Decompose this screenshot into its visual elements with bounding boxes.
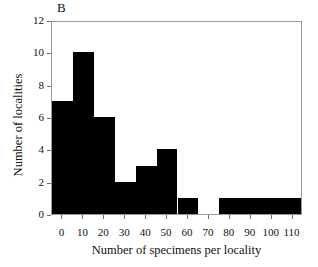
x-axis-tick-mark: [82, 215, 83, 219]
x-axis-tick-mark: [292, 215, 293, 219]
histogram-figure: B 0246810120102030405060708090100110 Num…: [0, 0, 318, 267]
y-axis-tick-label-text: 8: [39, 80, 45, 91]
y-axis-tick-mark: [47, 118, 51, 119]
x-axis-tick-label-text: 60: [181, 226, 192, 238]
x-axis-tick-mark: [208, 215, 209, 219]
x-axis-tick-label-text: 50: [161, 226, 172, 238]
x-axis-tick-mark: [124, 215, 125, 219]
axes-layer: 0246810120102030405060708090100110: [0, 0, 318, 267]
x-axis-tick-mark: [250, 215, 251, 219]
y-axis-tick-mark: [47, 21, 51, 22]
x-axis-tick-mark: [61, 215, 62, 219]
x-axis-tick-label-text: 20: [98, 226, 109, 238]
y-axis-tick-label-text: 10: [33, 47, 44, 58]
x-axis-tick-label-text: 10: [77, 226, 88, 238]
y-axis-tick-mark: [47, 215, 51, 216]
y-axis-tick-label-text: 4: [39, 144, 45, 155]
x-axis-tick-mark: [229, 215, 230, 219]
y-axis-tick-label-text: 0: [39, 209, 45, 220]
y-axis-tick-mark: [47, 183, 51, 184]
x-axis-tick-mark: [271, 215, 272, 219]
y-axis-tick-label-text: 12: [33, 15, 44, 26]
x-axis-tick-mark: [103, 215, 104, 219]
y-axis-tick-label-text: 2: [39, 177, 45, 188]
x-axis-tick-mark: [166, 215, 167, 219]
x-axis-tick-label-text: 80: [223, 226, 234, 238]
x-axis-tick-mark: [187, 215, 188, 219]
x-axis-title: Number of specimens per locality: [51, 243, 302, 257]
y-axis-title: Number of localities: [11, 45, 25, 205]
x-axis-tick-label-text: 0: [59, 226, 65, 238]
x-axis-tick-mark: [145, 215, 146, 219]
y-axis-tick-mark: [47, 150, 51, 151]
x-axis-tick-label: 110: [277, 222, 307, 240]
y-axis-tick-mark: [47, 53, 51, 54]
x-axis-tick-label-text: 40: [140, 226, 151, 238]
y-axis-tick-mark: [47, 86, 51, 87]
y-axis-tick-label-text: 6: [39, 112, 45, 123]
x-axis-tick-label-text: 90: [244, 226, 255, 238]
x-axis-tick-label-text: 70: [202, 226, 213, 238]
x-axis-tick-label-text: 110: [283, 226, 299, 238]
x-axis-tick-label-text: 30: [119, 226, 130, 238]
